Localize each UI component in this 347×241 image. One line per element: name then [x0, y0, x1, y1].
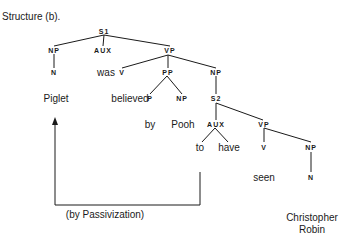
word-pooh: Pooh	[171, 119, 194, 130]
node-aux-main: AUX	[94, 47, 112, 54]
passivization-label: (by Passivization)	[66, 209, 144, 220]
word-have: have	[218, 142, 240, 153]
node-s2: S2	[211, 95, 222, 102]
node-np-agent: NP	[176, 95, 188, 102]
word-believed: believed	[111, 93, 148, 104]
node-s1: S1	[99, 28, 110, 35]
node-n-subject: N	[51, 69, 57, 76]
node-p: P	[147, 95, 153, 102]
node-pp: PP	[162, 69, 173, 76]
node-np-subject: NP	[48, 47, 60, 54]
word-seen: seen	[253, 172, 275, 183]
node-v-main: V	[119, 69, 125, 76]
word-piglet: Piglet	[43, 93, 68, 104]
passivization-arrow-path	[55, 122, 200, 205]
word-was: was	[97, 67, 115, 78]
arrow-head-icon	[52, 117, 58, 125]
word-christopher: Christopher	[286, 212, 338, 223]
node-vp-main: VP	[164, 47, 175, 54]
node-n-embedded: N	[308, 174, 314, 181]
node-np-embedded: NP	[305, 144, 317, 151]
word-robin: Robin	[299, 224, 325, 235]
node-v-embedded: V	[261, 144, 267, 151]
node-np-object: NP	[210, 69, 222, 76]
word-to: to	[196, 142, 204, 153]
node-aux-embedded: AUX	[207, 121, 225, 128]
node-vp-embedded: VP	[258, 121, 269, 128]
word-by: by	[145, 119, 156, 130]
